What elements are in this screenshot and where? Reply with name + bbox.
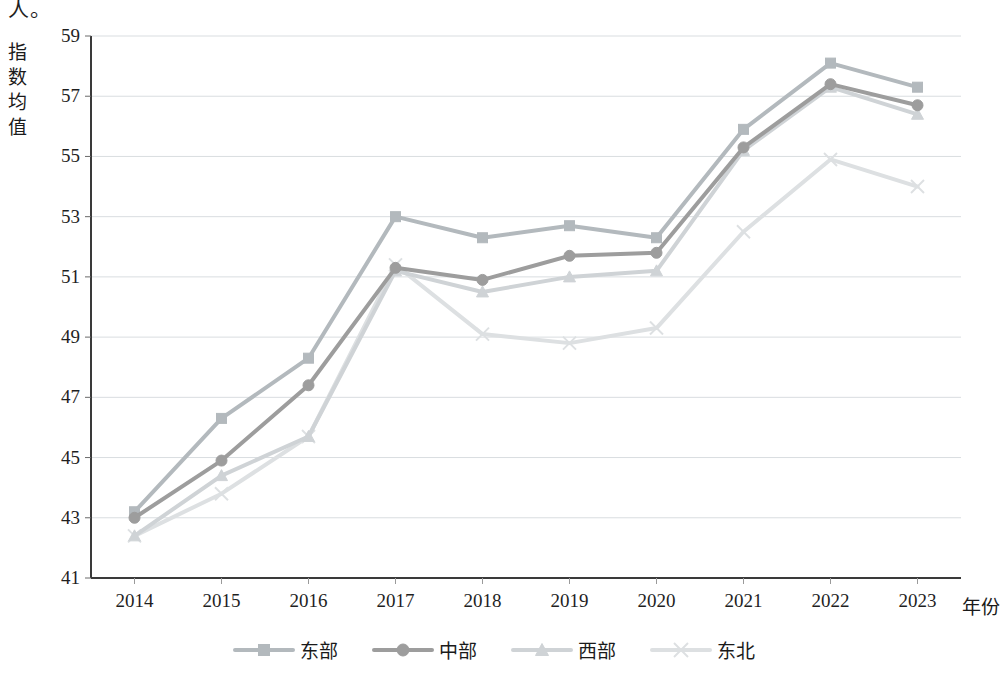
marker-shape xyxy=(826,58,836,68)
legend-item-东北[interactable]: 东北 xyxy=(650,636,755,663)
marker-shape xyxy=(217,413,227,423)
marker-shape xyxy=(303,380,314,391)
square-marker xyxy=(304,353,314,363)
triangle-marker xyxy=(511,640,573,660)
circle-marker xyxy=(477,274,488,285)
marker-shape xyxy=(397,644,409,656)
square-marker xyxy=(652,233,662,243)
square-marker xyxy=(391,212,401,222)
circle-marker xyxy=(303,380,314,391)
marker-shape xyxy=(304,353,314,363)
legend-label: 中部 xyxy=(439,636,477,663)
square-marker xyxy=(739,124,749,134)
chart-legend: 东部中部西部东北 xyxy=(0,636,987,663)
series-line xyxy=(135,159,918,535)
square-marker xyxy=(217,413,227,423)
legend-label: 东部 xyxy=(300,636,338,663)
marker-shape xyxy=(652,233,662,243)
legend-item-西部[interactable]: 西部 xyxy=(511,636,616,663)
square-marker xyxy=(478,233,488,243)
marker-shape xyxy=(478,233,488,243)
marker-shape xyxy=(565,221,575,231)
circle-marker xyxy=(738,142,749,153)
marker-shape xyxy=(129,512,140,523)
marker-shape xyxy=(564,250,575,261)
marker-shape xyxy=(391,212,401,222)
marker-shape xyxy=(390,262,401,273)
legend-label: 东北 xyxy=(717,636,755,663)
series-line xyxy=(135,84,918,518)
circle-marker xyxy=(651,247,662,258)
square-marker xyxy=(233,640,295,660)
marker-shape xyxy=(739,124,749,134)
square-marker xyxy=(826,58,836,68)
circle-marker xyxy=(912,100,923,111)
square-marker xyxy=(913,82,923,92)
marker-shape xyxy=(258,644,269,655)
square-marker xyxy=(258,644,269,655)
circle-marker xyxy=(372,640,434,660)
marker-shape xyxy=(912,100,923,111)
marker-shape xyxy=(651,247,662,258)
series-line xyxy=(135,63,918,512)
x-marker xyxy=(737,225,750,238)
legend-label: 西部 xyxy=(578,636,616,663)
legend-item-东部[interactable]: 东部 xyxy=(233,636,338,663)
series-东北 xyxy=(128,153,924,542)
marker-shape xyxy=(738,142,749,153)
circle-marker xyxy=(825,79,836,90)
legend-item-中部[interactable]: 中部 xyxy=(372,636,477,663)
series-东部 xyxy=(130,58,923,517)
marker-shape xyxy=(477,274,488,285)
circle-marker xyxy=(564,250,575,261)
series-西部 xyxy=(129,81,924,541)
x-marker xyxy=(650,640,712,660)
square-marker xyxy=(565,221,575,231)
circle-marker xyxy=(216,455,227,466)
series-中部 xyxy=(129,79,923,524)
circle-marker xyxy=(397,644,409,656)
series-line xyxy=(135,87,918,536)
marker-shape xyxy=(216,455,227,466)
circle-marker xyxy=(390,262,401,273)
circle-marker xyxy=(129,512,140,523)
marker-shape xyxy=(825,79,836,90)
marker-shape xyxy=(913,82,923,92)
